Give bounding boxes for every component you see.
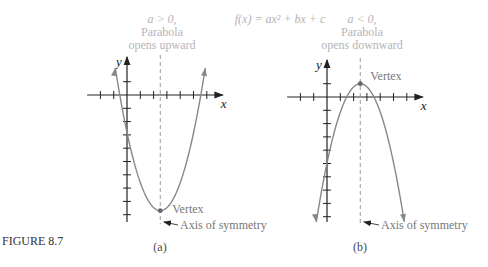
x-axis-label: x [220, 96, 227, 111]
y-axis-label: y [314, 57, 322, 72]
curve-arrowhead [201, 68, 207, 76]
axis-of-symmetry-label: Axis of symmetry [180, 218, 267, 232]
vertex-label: Vertex [172, 202, 203, 216]
parabola-figure: a > 0, Parabola opens upward f(x) = ax² … [0, 0, 488, 267]
panel-a-graph: xyVertexAxis of symmetry [87, 54, 267, 232]
axis-of-symmetry-pointer [164, 222, 178, 225]
panel-b-label: (b) [353, 240, 367, 254]
equation-label: f(x) = ax² + bx + c [235, 12, 326, 26]
vertex-point [358, 81, 363, 86]
panel-a-desc-line1: Parabola [141, 25, 184, 39]
figure-caption: FIGURE 8.7 [2, 234, 63, 248]
x-axis-label: x [420, 98, 427, 113]
vertex-label: Vertex [370, 69, 401, 83]
axis-of-symmetry-pointer [364, 222, 379, 225]
panel-b-desc-line2: opens downward [321, 38, 403, 52]
panel-a-desc-line2: opens upward [129, 38, 196, 52]
panel-a-condition: a > 0, [147, 12, 176, 26]
panel-b-graph: xyVertexAxis of symmetry [287, 57, 468, 232]
vertex-point [158, 208, 163, 213]
axis-of-symmetry-label: Axis of symmetry [381, 218, 468, 232]
panel-a-label: (a) [153, 240, 166, 254]
panel-b-desc-line1: Parabola [341, 25, 384, 39]
panel-b-condition: a < 0, [347, 12, 376, 26]
y-axis-label: y [114, 54, 122, 69]
